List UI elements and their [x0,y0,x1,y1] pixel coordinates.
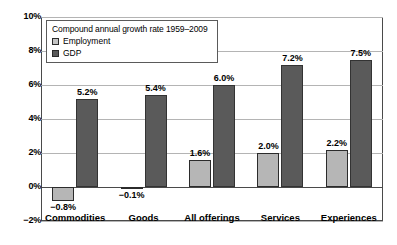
bar-employment [326,150,348,187]
bar-gdp [213,85,235,187]
bar-value-label: 5.4% [133,83,179,93]
growth-rate-bar-chart: 10%8%6%4%2%0%−2% −0.8%5.2%−0.1%5.4%1.6%6… [0,0,397,245]
bar-value-label: 6.0% [201,73,247,83]
legend-label-gdp: GDP [63,48,81,59]
bar-value-label: 5.2% [64,87,110,97]
y-tick-label: 6% [3,79,41,89]
legend-item-gdp: GDP [52,48,213,59]
legend-title: Compound annual growth rate 1959–2009 [52,24,213,35]
bar-value-label: 7.2% [269,53,315,63]
bar-employment [52,187,74,201]
bar-gdp [281,65,303,187]
legend-label-employment: Employment [63,36,110,47]
y-tick-label: 8% [3,45,41,55]
bar-value-label: −0.8% [40,202,86,212]
y-tick-label: 2% [3,147,41,157]
bar-value-label: 7.5% [338,48,384,58]
y-tick-label: 4% [3,113,41,123]
y-tick-label: 0% [3,181,41,191]
chart-legend: Compound annual growth rate 1959–2009 Em… [46,20,218,63]
y-tick-label: 10% [3,11,41,21]
legend-item-employment: Employment [52,36,213,47]
bar-gdp [145,95,167,187]
bar-employment [189,160,211,187]
bar-employment [121,187,143,189]
legend-swatch-employment [52,38,59,45]
bar-gdp [76,99,98,187]
x-axis-label: Experiences [304,212,394,223]
bar-gdp [350,60,372,188]
bar-employment [257,153,279,187]
bar-value-label: −0.1% [109,190,155,200]
legend-swatch-gdp [52,50,59,57]
